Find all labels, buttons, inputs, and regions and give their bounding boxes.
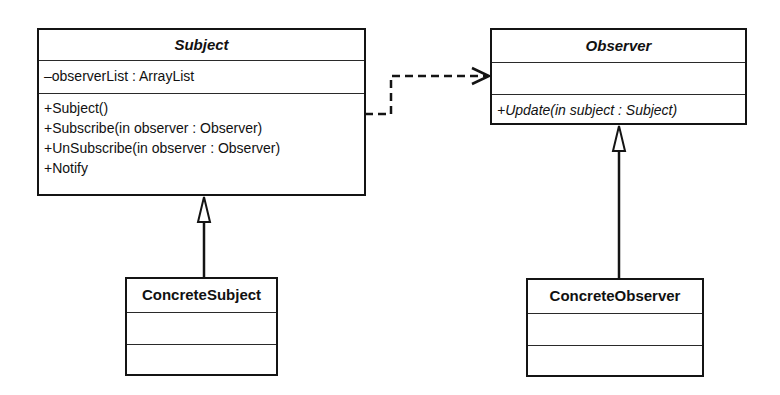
attributes-compartment: –observerList : ArrayList: [39, 60, 364, 93]
attributes-compartment: [528, 313, 702, 345]
operations-compartment: +Subject() +Subscribe(in observer : Obse…: [39, 93, 364, 178]
generalization-arrow-observer: [613, 126, 625, 279]
class-subject[interactable]: Subject –observerList : ArrayList +Subje…: [37, 28, 366, 196]
operations-compartment: [528, 345, 702, 375]
operation: +Subscribe(in observer : Observer): [44, 118, 359, 138]
attribute: –observerList : ArrayList: [44, 66, 359, 86]
operations-compartment: [127, 344, 276, 374]
class-concrete-subject[interactable]: ConcreteSubject: [125, 277, 278, 376]
class-name: ConcreteSubject: [127, 279, 276, 312]
operations-compartment: +Update(in subject : Subject): [492, 94, 745, 120]
attributes-compartment: [127, 312, 276, 344]
attributes-compartment: [492, 62, 745, 94]
operation: +Update(in subject : Subject): [497, 100, 740, 120]
generalization-arrow-subject: [198, 197, 210, 278]
class-observer[interactable]: Observer +Update(in subject : Subject): [490, 28, 747, 125]
class-concrete-observer[interactable]: ConcreteObserver: [526, 278, 704, 377]
class-name: Observer: [492, 30, 745, 62]
operation: +UnSubscribe(in observer : Observer): [44, 138, 359, 158]
class-name: Subject: [39, 30, 364, 60]
class-name: ConcreteObserver: [528, 280, 702, 313]
operation: +Notify: [44, 158, 359, 178]
operation: +Subject(): [44, 98, 359, 118]
dependency-arrow: [365, 68, 489, 114]
